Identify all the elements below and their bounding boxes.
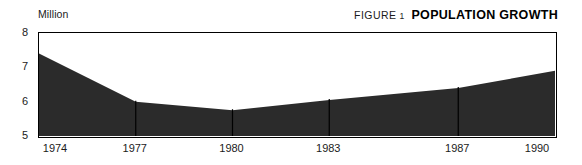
figure-number: 1 [399,11,404,21]
figure-population-growth: Million FIGURE 1 POPULATION GROWTH 5678 … [0,0,582,165]
y-tick-label-8: 8 [22,26,28,38]
plot-area [38,32,557,138]
y-axis: 5678 [0,32,34,138]
y-tick-label-5: 5 [22,129,28,141]
figure-label: FIGURE [354,9,396,21]
y-axis-unit-label: Million [38,8,68,20]
figure-title-group: FIGURE 1 POPULATION GROWTH [354,8,558,22]
x-tick-label-1980: 1980 [219,142,243,154]
x-tick-label-1977: 1977 [123,142,147,154]
x-tick-label-1987: 1987 [445,142,469,154]
page-title: POPULATION GROWTH [411,8,558,22]
x-tick-label-1974: 1974 [43,142,67,154]
x-axis: 197419771980198319871990 [0,142,582,160]
x-tick-label-1990: 1990 [525,142,549,154]
y-tick-label-7: 7 [22,60,28,72]
figure-header: Million FIGURE 1 POPULATION GROWTH [0,8,582,26]
area-series-population [39,54,555,136]
y-tick-label-6: 6 [22,95,28,107]
area-chart-svg [39,33,555,136]
x-tick-label-1983: 1983 [316,142,340,154]
